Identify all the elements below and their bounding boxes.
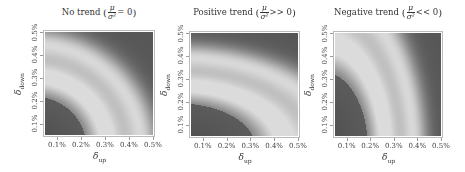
y-axis-label: δdown (303, 67, 315, 103)
chart-title: Negative trend (μσ²<< 0) (325, 4, 451, 21)
heatmap-plot-area (335, 33, 441, 136)
x-tick-label: 0.4% (408, 142, 426, 150)
x-tick-label: 0.2% (361, 142, 379, 150)
x-tick-mark (417, 138, 418, 141)
x-tick-mark (370, 138, 371, 141)
x-tick-mark (347, 138, 348, 141)
y-axis-subscript: down (308, 74, 315, 90)
panel-negative-trend: Negative trend (μσ²<< 0)0.1%0.2%0.3%0.4%… (0, 0, 465, 172)
x-tick-label: 0.1% (338, 142, 356, 150)
y-tick-label: 0.1% (321, 115, 330, 135)
y-tick-mark (330, 79, 333, 80)
x-tick-label: 0.5% (432, 142, 450, 150)
y-tick-label: 0.2% (321, 92, 330, 112)
x-tick-mark (394, 138, 395, 141)
title-relation: << 0 (416, 7, 438, 17)
y-tick-mark (330, 33, 333, 34)
x-axis-label: δup (382, 152, 395, 164)
close-paren: ) (438, 7, 442, 18)
fraction-denominator: σ² (407, 13, 415, 21)
title-text: Negative trend (334, 7, 399, 17)
x-axis-subscript: up (387, 157, 395, 164)
heatmap-canvas (335, 33, 441, 136)
y-tick-mark (330, 125, 333, 126)
y-tick-mark (330, 56, 333, 57)
y-tick-label: 0.4% (321, 46, 330, 66)
title-fraction: μσ² (407, 4, 415, 21)
x-tick-mark (441, 138, 442, 141)
y-tick-label: 0.5% (321, 23, 330, 43)
y-tick-mark (330, 102, 333, 103)
y-tick-label: 0.3% (321, 69, 330, 89)
x-tick-label: 0.3% (385, 142, 403, 150)
open-paren: ( (402, 7, 406, 18)
